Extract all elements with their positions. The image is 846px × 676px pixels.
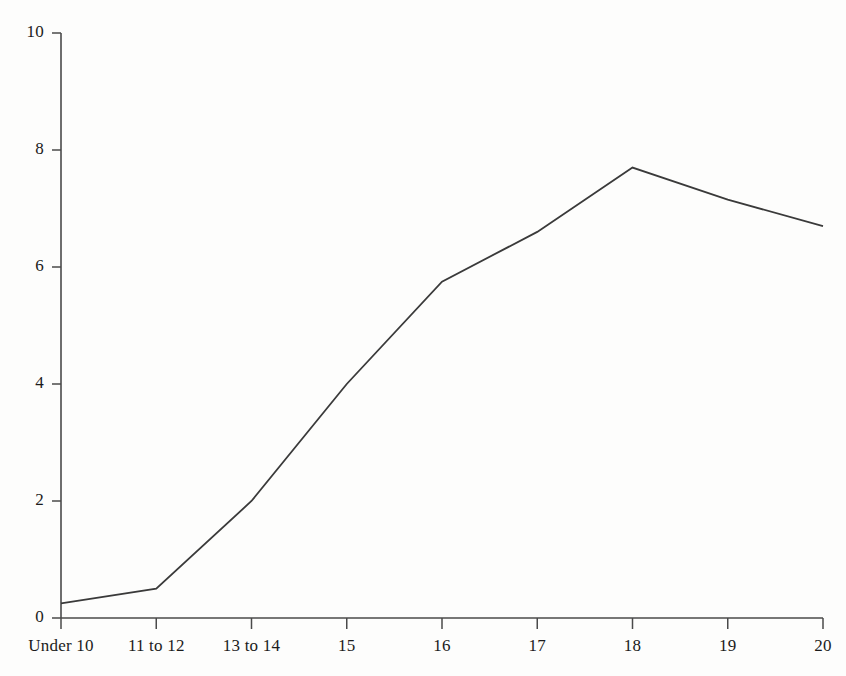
y-tick-label: 0 — [4, 607, 44, 627]
y-tick-label: 8 — [4, 139, 44, 159]
x-axis-ticks — [61, 618, 823, 629]
line-chart: 0246810 Under 1011 to 1213 to 1415161718… — [0, 0, 846, 676]
y-tick-label: 10 — [4, 22, 44, 42]
data-series-line — [61, 168, 823, 604]
x-tick-label: 20 — [743, 636, 846, 656]
y-axis-ticks — [52, 33, 61, 618]
y-tick-label: 4 — [4, 373, 44, 393]
chart-plot-area — [0, 0, 846, 676]
y-tick-label: 6 — [4, 256, 44, 276]
y-tick-label: 2 — [4, 490, 44, 510]
